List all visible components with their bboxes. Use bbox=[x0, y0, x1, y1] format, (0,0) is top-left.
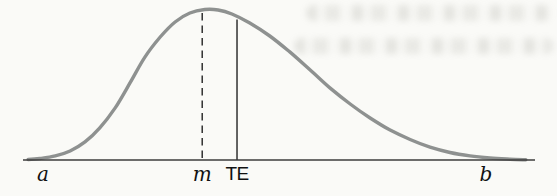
marker-lines bbox=[202, 13, 237, 160]
density-curve bbox=[28, 9, 526, 160]
distribution-figure: amTEb bbox=[0, 0, 557, 196]
distribution-plot bbox=[0, 0, 557, 196]
